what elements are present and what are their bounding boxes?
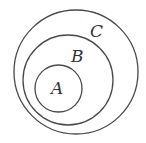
set-c-label: C xyxy=(90,21,103,41)
set-a-label: A xyxy=(49,78,63,98)
set-b-label: B xyxy=(70,46,84,66)
nested-sets-diagram: C B A xyxy=(0,0,146,143)
